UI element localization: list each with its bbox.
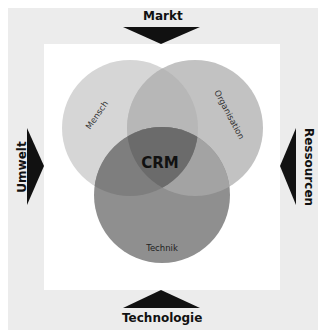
arrow-umwelt-icon [27,128,44,205]
label-markt: Markt [143,9,183,23]
label-ressourcen: Ressourcen [302,128,316,206]
arrow-technologie-icon [123,290,200,308]
arrow-markt-icon [123,27,200,44]
venn-diagram: Mensch Organisation Technik CRM [0,0,320,332]
label-technologie: Technologie [122,311,202,325]
label-crm: CRM [141,154,179,172]
label-umwelt: Umwelt [15,141,29,192]
arrow-ressourcen-icon [280,128,296,205]
label-technik: Technik [145,243,178,253]
